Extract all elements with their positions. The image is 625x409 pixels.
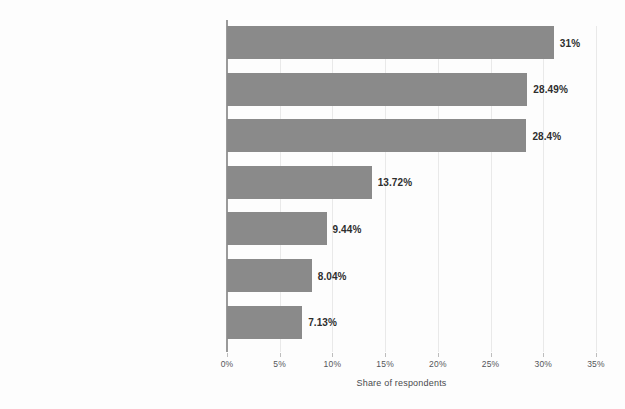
x-tick-label: 15% xyxy=(376,359,394,369)
x-tick-label: 20% xyxy=(429,359,447,369)
bar[interactable] xyxy=(227,119,526,152)
bar-row[interactable]: Trust in payee7.13% xyxy=(227,306,596,339)
x-tick-label: 25% xyxy=(482,359,500,369)
x-tick-mark xyxy=(543,353,544,357)
bar-value-label: 9.44% xyxy=(333,223,362,234)
x-tick-mark xyxy=(280,353,281,357)
bar-value-label: 7.13% xyxy=(308,317,337,328)
bar-value-label: 28.49% xyxy=(533,84,568,95)
bar-value-label: 8.04% xyxy=(318,270,347,281)
bar-chart: Basic requirement to transact31%Privacy2… xyxy=(0,0,625,409)
x-tick-label: 10% xyxy=(324,359,342,369)
x-tick-mark xyxy=(491,353,492,357)
x-tick-label: 30% xyxy=(534,359,552,369)
x-tick-mark xyxy=(227,353,228,357)
bar[interactable] xyxy=(227,212,327,245)
bar-row[interactable]: Convenience13.72% xyxy=(227,166,596,199)
bar[interactable] xyxy=(227,259,312,292)
bar[interactable] xyxy=(227,73,527,106)
bar-row[interactable]: Security28.4% xyxy=(227,119,596,152)
x-tick-mark xyxy=(385,353,386,357)
x-tick-mark xyxy=(332,353,333,357)
bar-row[interactable]: Aware of grievance redressal mechanism8.… xyxy=(227,259,596,292)
x-tick-label: 5% xyxy=(273,359,286,369)
gridline xyxy=(596,26,597,352)
x-axis-title: Share of respondents xyxy=(0,378,625,388)
bar-row[interactable]: Trust in instrument9.44% xyxy=(227,212,596,245)
x-tick-label: 0% xyxy=(221,359,234,369)
bar-value-label: 13.72% xyxy=(378,177,413,188)
bar-row[interactable]: Privacy28.49% xyxy=(227,73,596,106)
x-tick-mark xyxy=(596,353,597,357)
bar-value-label: 28.4% xyxy=(532,130,561,141)
x-tick-label: 35% xyxy=(587,359,605,369)
bar-row[interactable]: Basic requirement to transact31% xyxy=(227,26,596,59)
bar[interactable] xyxy=(227,26,554,59)
bar[interactable] xyxy=(227,166,372,199)
x-axis-title-label: Share of respondents xyxy=(356,378,446,388)
bar-value-label: 31% xyxy=(560,37,580,48)
x-axis: 0%5%10%15%20%25%30%35% xyxy=(227,353,596,373)
x-tick-mark xyxy=(438,353,439,357)
bar[interactable] xyxy=(227,306,302,339)
